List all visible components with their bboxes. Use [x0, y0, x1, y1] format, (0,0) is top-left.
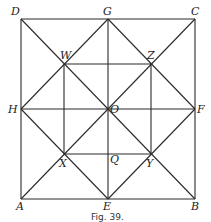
label-Y: Y [146, 157, 155, 170]
geometry-figure: D G C W Z H O F X Q Y A E B Fig. 39. [0, 0, 211, 222]
label-C: C [191, 5, 200, 18]
label-A: A [15, 200, 24, 213]
label-Q: Q [110, 153, 119, 166]
label-D: D [10, 5, 20, 18]
label-F: F [196, 103, 205, 116]
label-B: B [190, 200, 199, 213]
label-X: X [58, 157, 68, 170]
label-H: H [7, 103, 18, 116]
label-Z: Z [146, 49, 155, 62]
figure-caption: Fig. 39. [91, 212, 124, 222]
label-O: O [110, 103, 119, 116]
label-W: W [60, 49, 73, 62]
label-G: G [103, 5, 112, 18]
figure-lines [21, 19, 195, 199]
